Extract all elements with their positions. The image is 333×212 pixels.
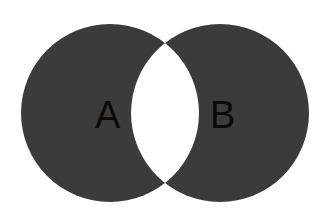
venn-diagram: A B (0, 0, 333, 212)
set-a-label: A (95, 94, 121, 136)
set-b-label: B (210, 94, 235, 136)
